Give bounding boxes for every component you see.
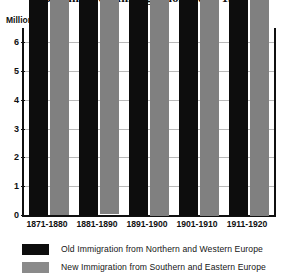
y-axis-tick-mark [21, 100, 25, 101]
bar-old-immigration: 2,127,000 [29, 0, 48, 216]
bar-old-immigration: 1,644,000 [129, 0, 148, 216]
y-axis-tick-mark [21, 157, 25, 158]
x-axis-tick-label: 1911-1920 [227, 219, 268, 229]
y-axis-tick-label: 1 [14, 182, 19, 191]
legend-item-new: New Immigration from Southern and Easter… [0, 258, 289, 276]
x-axis-tick-labels: 1871-18801881-18901891-19001901-19101911… [22, 219, 276, 233]
y-axis-tick-label: 2 [14, 153, 19, 162]
y-axis-tick-label: 6 [14, 38, 19, 47]
legend-swatch-new-immigration [22, 262, 49, 273]
immigration-bar-chart-figure: Old and New Immigration, 1871-1920 Milli… [0, 0, 289, 277]
legend-label-old-immigration: Old Immigration from Northern and Wester… [61, 244, 263, 254]
bar-new-immigration: 6,244,000 [200, 0, 219, 216]
bar-group: 2,001,0002,370,000 [229, 28, 269, 215]
x-axis-tick-label: 1881-1890 [76, 219, 117, 229]
bar-old-immigration: 1,912,000 [179, 0, 198, 216]
bar-new-immigration: 954,000 [100, 0, 119, 214]
y-axis-tick-label: 3 [14, 124, 19, 133]
legend-label-new-immigration: New Immigration from Southern and Easter… [61, 262, 266, 272]
y-axis-tick-mark [21, 186, 25, 187]
y-axis-tick-mark [21, 42, 25, 43]
y-axis-tick-mark [21, 215, 25, 216]
y-axis-tick-label: 4 [14, 95, 19, 104]
x-axis-tick-label: 1901-1910 [176, 219, 217, 229]
chart-legend: Old Immigration from Northern and Wester… [0, 240, 289, 276]
bar-group: 1,912,0006,244,000 [179, 28, 219, 215]
x-axis-tick-label: 1871-1880 [26, 219, 67, 229]
bar-new-immigration: 2,370,000 [250, 0, 269, 216]
y-axis-tick-mark [21, 129, 25, 130]
bar-group: 1,644,0001,914,000 [129, 28, 169, 215]
bar-old-immigration: 2,001,000 [229, 0, 248, 216]
legend-swatch-old-immigration [22, 244, 49, 255]
bar-group: 2,127,000145,000 [29, 28, 69, 215]
y-axis-tick-mark [21, 71, 25, 72]
plot-area: 01234562,127,000145,0003,783,000954,0001… [22, 28, 276, 217]
legend-item-old: Old Immigration from Northern and Wester… [0, 240, 289, 258]
x-axis-tick-label: 1891-1900 [126, 219, 167, 229]
y-axis-tick-label: 0 [14, 211, 19, 220]
bar-new-immigration: 1,914,000 [150, 0, 169, 216]
y-axis-tick-label: 5 [14, 67, 19, 76]
bar-group: 3,783,000954,000 [79, 28, 119, 215]
bar-old-immigration: 3,783,000 [79, 0, 98, 216]
bar-new-immigration: 145,000 [50, 0, 69, 215]
